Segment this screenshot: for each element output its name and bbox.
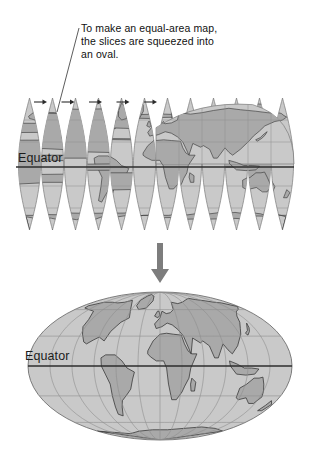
- caption-line-2: the slices are squeezed into: [81, 35, 251, 48]
- squeeze-arrow-icon: [34, 99, 47, 104]
- landmass-japan: [0, 132, 17, 142]
- oval-projection-map: [0, 286, 312, 454]
- landmass-north-america: [291, 110, 312, 147]
- down-arrow-icon: [148, 241, 172, 285]
- landmass-australia: [0, 172, 13, 192]
- landmass-greenland: [296, 103, 312, 120]
- caption-line-3: an oval.: [81, 48, 251, 61]
- landmass-japan: [0, 132, 3, 142]
- equator-label-oval-map: Equator: [25, 349, 69, 363]
- landmass-japan: [0, 132, 10, 142]
- figure-caption: To make an equal-area map, the slices ar…: [81, 22, 251, 62]
- landmass-australia: [0, 172, 19, 192]
- landmass-australia: [0, 172, 8, 192]
- cap-landmass-antarctica-strip: [18, 212, 294, 230]
- equator-label-gore-map: Equator: [18, 151, 62, 165]
- landmass-australia: [0, 172, 3, 192]
- squeeze-arrow-icon: [62, 99, 75, 104]
- caption-line-1: To make an equal-area map,: [81, 22, 251, 35]
- figure-root: To make an equal-area map, the slices ar…: [0, 0, 312, 454]
- landmass-new-zealand: [15, 190, 20, 198]
- landmass-antarctica-strip: [199, 212, 264, 230]
